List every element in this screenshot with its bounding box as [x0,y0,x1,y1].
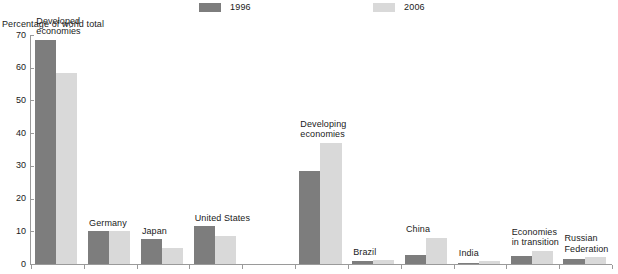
bar-group [563,35,605,264]
chart-legend: 1996 2006 [0,0,618,20]
bar-1996 [511,256,532,264]
x-tick [559,265,560,269]
bar-1996 [352,261,373,264]
x-tick [31,265,32,269]
bar-2006 [162,248,183,264]
bar-group [88,35,130,264]
plot-area: 010203040506070 Developed economiesGerma… [0,31,618,274]
x-tick [454,265,455,269]
y-tick [30,35,34,36]
x-tick [189,265,190,269]
y-tick [30,68,34,69]
bar-group [194,35,236,264]
bar-1996 [458,263,479,264]
y-tick-label: 60 [0,63,26,72]
y-tick-label: 20 [0,194,26,203]
bar-2006 [426,238,447,264]
bar-2006 [215,236,236,264]
legend-swatch-1996 [199,3,221,12]
x-tick [295,265,296,269]
legend-item-2006: 2006 [373,3,425,12]
x-tick [506,265,507,269]
bar-1996 [299,171,320,264]
bar-2006 [479,261,500,264]
y-tick-label: 0 [0,260,26,269]
y-axis-line [30,35,31,264]
bar-chart: 1996 2006 Percentage of world total 0102… [0,0,618,274]
x-tick [401,265,402,269]
legend-label-2006: 2006 [404,3,425,12]
x-tick [612,265,613,269]
group-label: China [406,224,430,235]
x-tick [137,265,138,269]
bar-group [352,35,394,264]
bar-1996 [194,226,215,264]
group-label: Developed economies [36,16,80,37]
group-label: Brazil [353,247,376,258]
y-tick-label: 40 [0,129,26,138]
bar-group [458,35,500,264]
legend-label-1996: 1996 [230,3,251,12]
x-tick [242,265,243,269]
bar-2006 [373,260,394,264]
x-axis-line [30,264,612,265]
x-tick [348,265,349,269]
bar-2006 [109,231,130,264]
y-tick [30,199,34,200]
bar-1996 [141,239,162,264]
group-label: Economies in transition [512,227,559,248]
legend-swatch-2006 [373,3,395,12]
bar-2006 [585,257,606,264]
bar-2006 [532,251,553,264]
y-tick [30,231,34,232]
y-tick [30,133,34,134]
bar-group [299,35,341,264]
group-label: United States [195,213,250,224]
bar-2006 [320,143,341,264]
y-tick [30,100,34,101]
bar-2006 [56,73,77,264]
group-label: Japan [142,226,167,237]
group-label: Developing economies [300,119,346,140]
group-label: Russian Federation [564,233,608,254]
y-tick-label: 30 [0,161,26,170]
bar-1996 [405,255,426,264]
bar-1996 [563,259,584,264]
x-tick [84,265,85,269]
bar-group [35,35,77,264]
bar-1996 [35,40,56,264]
group-label: Germany [89,218,127,229]
y-tick [30,166,34,167]
y-tick-label: 10 [0,227,26,236]
bar-1996 [88,231,109,264]
group-label: India [459,248,479,259]
y-tick-label: 50 [0,96,26,105]
y-tick-label: 70 [0,31,26,40]
legend-item-1996: 1996 [199,3,251,12]
